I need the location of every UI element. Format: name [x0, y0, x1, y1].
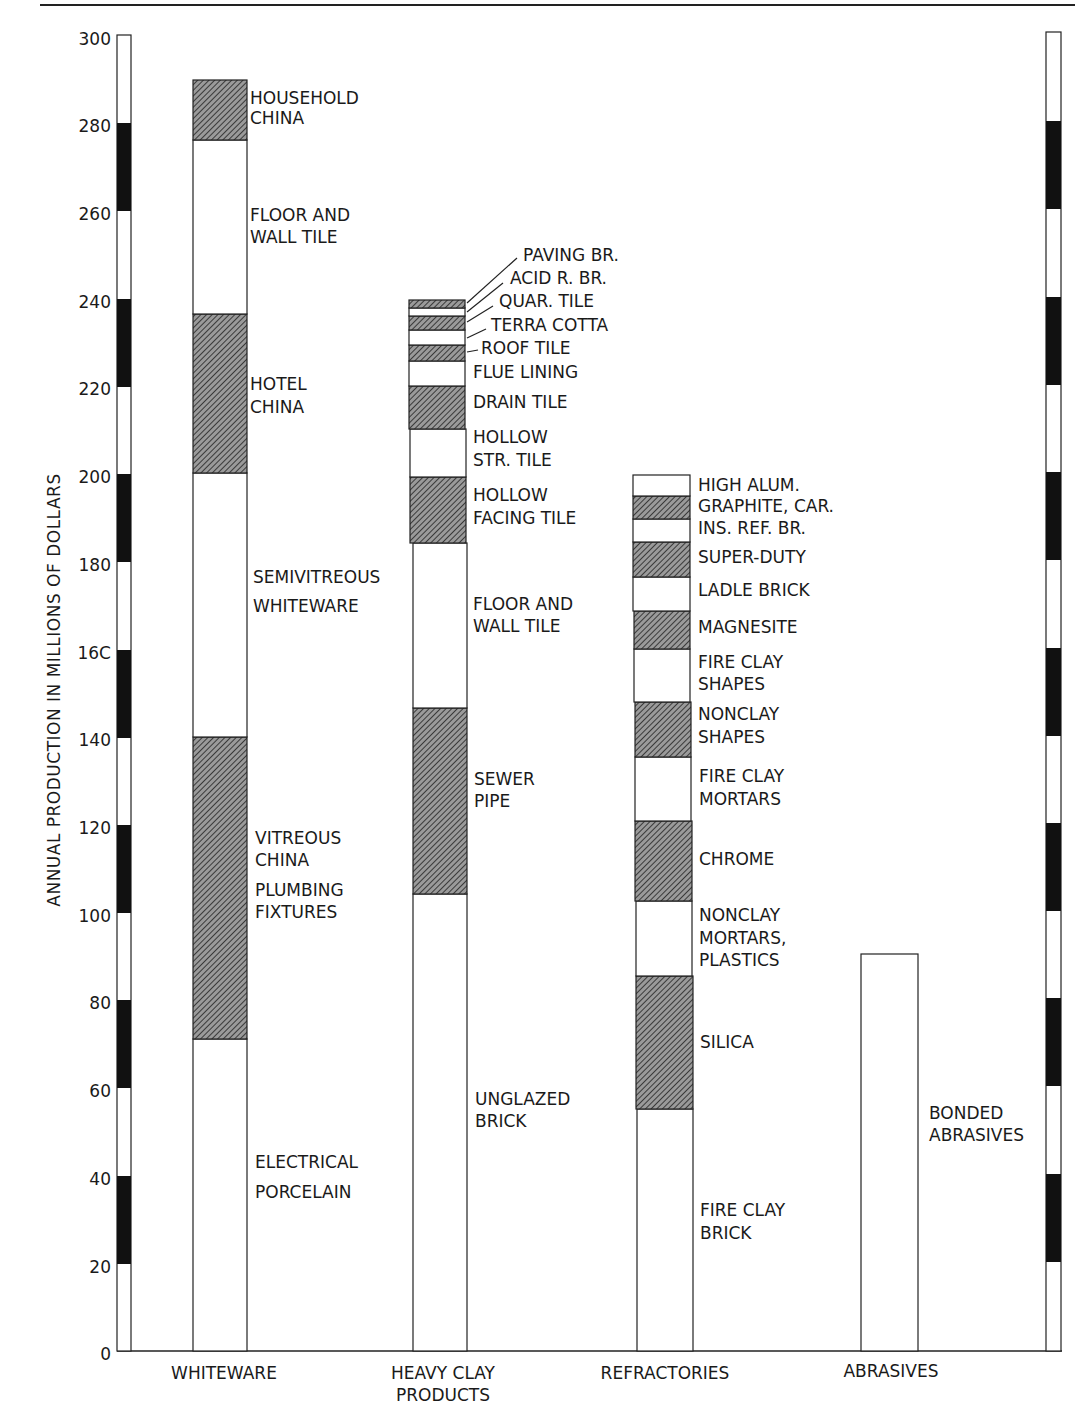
label-floor-wall-tile: WALL TILE: [250, 227, 337, 247]
segment-chrome: [635, 821, 692, 901]
y-tick: 20: [89, 1257, 111, 1277]
label-vitreous-china: CHINA: [255, 850, 309, 870]
category-abrasives: ABRASIVES: [843, 1361, 938, 1381]
category-refractories: REFRACTORIES: [601, 1363, 730, 1383]
abrasives-labels: BONDED ABRASIVES: [929, 1103, 1024, 1145]
label-high-alum: HIGH ALUM.: [698, 475, 800, 495]
label-ladle-brick: LADLE BRICK: [698, 580, 811, 600]
bar-refractories: [633, 475, 693, 1351]
y-tick: 80: [89, 993, 111, 1013]
segment-fire-clay-mortars: [635, 757, 691, 821]
y-tick: 220: [79, 379, 111, 399]
right-scale-bar: [1046, 32, 1061, 1351]
segment-fire-clay-shapes: [634, 649, 690, 702]
label-chrome: CHROME: [699, 849, 774, 869]
label-acid-r-br: ACID R. BR.: [510, 268, 607, 288]
segment-magnesite: [634, 611, 690, 649]
label-paving-br: PAVING BR.: [523, 245, 619, 265]
bar-abrasives: [861, 954, 918, 1351]
label-plastics: PLASTICS: [699, 950, 780, 970]
bar-heavy-clay: [409, 300, 467, 1351]
segment-terra-cotta: [409, 330, 465, 345]
segment-silica: [636, 976, 693, 1109]
label-sewer-pipe: SEWER: [474, 769, 535, 789]
y-tick: 180: [79, 555, 111, 575]
y-tick-labels: 0 20 40 60 80 100 120 140 16C 180 200 22…: [77, 29, 111, 1364]
label-hollow-facing-tile: HOLLOW: [473, 485, 548, 505]
segment-paving-br: [409, 300, 465, 308]
label-fire-clay-brick: FIRE CLAY: [700, 1200, 786, 1220]
segment-high-alum: [633, 475, 690, 496]
y-tick: 120: [79, 818, 111, 838]
label-vitreous-china: VITREOUS: [255, 828, 341, 848]
segment-nonclay-shapes: [635, 702, 691, 757]
segment-electrical-porcelain: [193, 1039, 247, 1351]
label-hotel-china: CHINA: [250, 397, 304, 417]
label-fire-clay-mortars: MORTARS: [699, 789, 781, 809]
segment-quar-tile: [409, 316, 465, 330]
segment-vitreous-china: [193, 737, 247, 1039]
label-sewer-pipe: PIPE: [474, 791, 510, 811]
label-hotel-china: HOTEL: [250, 374, 307, 394]
label-terra-cotta: TERRA COTTA: [490, 315, 608, 335]
label-magnesite: MAGNESITE: [698, 617, 798, 637]
label-hollow-facing-tile: FACING TILE: [473, 508, 576, 528]
segment-super-duty: [633, 542, 690, 577]
label-nonclay-mortars: MORTARS,: [699, 928, 786, 948]
left-scale-bar: [117, 35, 131, 1351]
label-fire-clay-brick: BRICK: [700, 1223, 752, 1243]
segment-acid-r-br: [409, 308, 465, 316]
label-plumbing-fixtures: PLUMBING: [255, 880, 344, 900]
segment-flue-lining: [409, 361, 465, 386]
label-fire-clay-shapes: SHAPES: [698, 674, 765, 694]
y-tick: 60: [89, 1081, 111, 1101]
y-tick: 300: [79, 29, 111, 49]
label-nonclay-mortars: NONCLAY: [699, 905, 781, 925]
y-tick: 100: [79, 906, 111, 926]
label-nonclay-shapes: SHAPES: [698, 727, 765, 747]
label-nonclay-shapes: NONCLAY: [698, 704, 780, 724]
category-whiteware: WHITEWARE: [171, 1363, 277, 1383]
segment-household-china: [193, 80, 247, 140]
label-drain-tile: DRAIN TILE: [473, 392, 568, 412]
segment-floor-wall-tile: [193, 140, 247, 314]
y-tick: 260: [79, 204, 111, 224]
label-fire-clay-mortars: FIRE CLAY: [699, 766, 785, 786]
segment-nonclay-mortars: [636, 901, 692, 976]
refractories-labels: HIGH ALUM. GRAPHITE, CAR. INS. REF. BR. …: [698, 475, 834, 1243]
segment-graphite-car: [633, 496, 690, 519]
label-silica: SILICA: [700, 1032, 754, 1052]
label-household-china: CHINA: [250, 108, 304, 128]
label-roof-tile: ROOF TILE: [481, 338, 570, 358]
y-tick: 16C: [77, 643, 111, 663]
segment-hollow-facing-tile: [410, 477, 466, 543]
label-bonded-abrasives: BONDED: [929, 1103, 1003, 1123]
label-semivitreous: SEMIVITREOUS: [253, 567, 380, 587]
label-household-china: HOUSEHOLD: [250, 88, 359, 108]
segment-roof-tile: [409, 345, 465, 361]
category-heavy-clay: PRODUCTS: [396, 1385, 490, 1405]
label-graphite-car: GRAPHITE, CAR.: [698, 496, 834, 516]
y-tick: 40: [89, 1169, 111, 1189]
label-electrical-porcelain: ELECTRICAL: [255, 1152, 359, 1172]
heavy-clay-labels: PAVING BR. ACID R. BR. QUAR. TILE TERRA …: [473, 245, 619, 1131]
label-unglazed-brick: UNGLAZED: [475, 1089, 570, 1109]
segment-semivitreous: [193, 473, 247, 737]
segment-ladle-brick: [633, 577, 690, 611]
segment-hotel-china: [193, 314, 247, 473]
category-heavy-clay: HEAVY CLAY: [391, 1363, 496, 1383]
y-tick: 280: [79, 116, 111, 136]
label-ins-ref-br: INS. REF. BR.: [698, 518, 806, 538]
y-tick: 0: [100, 1344, 111, 1364]
label-unglazed-brick: BRICK: [475, 1111, 527, 1131]
label-bonded-abrasives: ABRASIVES: [929, 1125, 1024, 1145]
y-axis-title: ANNUAL PRODUCTION IN MILLIONS OF DOLLARS: [44, 473, 64, 906]
segment-hollow-str-tile: [410, 429, 466, 477]
label-electrical-porcelain: PORCELAIN: [255, 1182, 351, 1202]
label-super-duty: SUPER-DUTY: [698, 547, 806, 567]
label-floor-wall-tile: WALL TILE: [473, 616, 560, 636]
whiteware-labels: HOUSEHOLD CHINA FLOOR AND WALL TILE HOTE…: [250, 88, 380, 1202]
label-floor-wall-tile: FLOOR AND: [250, 205, 350, 225]
y-tick: 240: [79, 292, 111, 312]
label-floor-wall-tile: FLOOR AND: [473, 594, 573, 614]
